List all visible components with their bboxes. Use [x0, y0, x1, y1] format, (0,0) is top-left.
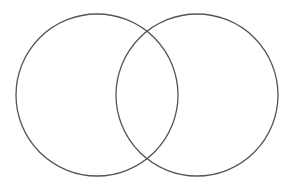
venn-circle-left	[16, 14, 178, 176]
venn-circle-right	[116, 14, 278, 176]
venn-diagram	[0, 0, 287, 192]
